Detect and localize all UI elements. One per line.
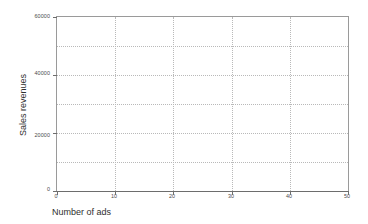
y-axis-title: Sales revenues bbox=[18, 45, 28, 165]
x-tick-label-10: 10 bbox=[111, 193, 117, 199]
y-tick-label-20000: 20000 bbox=[35, 132, 51, 138]
x-tick-40 bbox=[290, 191, 291, 195]
x-tick-50 bbox=[348, 191, 349, 195]
x-tick-label-40: 40 bbox=[286, 193, 292, 199]
data-series-layer bbox=[57, 17, 348, 191]
x-axis-title: Number of ads bbox=[52, 207, 111, 217]
plot-area bbox=[56, 16, 349, 192]
x-tick-10 bbox=[115, 191, 116, 195]
x-tick-label-50: 50 bbox=[344, 193, 350, 199]
y-tick-label-0: 0 bbox=[47, 186, 50, 192]
x-tick-20 bbox=[173, 191, 174, 195]
y-tick-label-60000: 60000 bbox=[35, 13, 51, 19]
y-tick-label-40000: 40000 bbox=[35, 70, 51, 76]
x-tick-label-30: 30 bbox=[228, 193, 234, 199]
x-tick-0 bbox=[57, 191, 58, 195]
x-tick-label-20: 20 bbox=[169, 193, 175, 199]
chart-figure: Sales revenues 60000 40000 20000 0 0 10 … bbox=[0, 0, 368, 224]
x-tick-30 bbox=[232, 191, 233, 195]
